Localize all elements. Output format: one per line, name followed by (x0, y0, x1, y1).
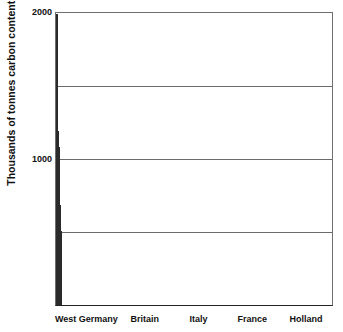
x-axis-category-labels: West Germany Britain Italy France Hollan… (55, 309, 333, 329)
bar-series (56, 13, 332, 305)
x-tick-label-holland: Holland (279, 309, 333, 329)
x-tick-label-west-germany: West Germany (55, 309, 118, 329)
plot-area (55, 12, 333, 306)
bar-holland (61, 231, 62, 305)
x-tick-label-france: France (225, 309, 279, 329)
x-tick-label-italy: Italy (172, 309, 226, 329)
x-tick-label-britain: Britain (118, 309, 172, 329)
y-tick-label-2000: 2000 (20, 8, 52, 17)
y-axis-title: Thousands of tonnes carbon content (0, 0, 22, 300)
bar-chart: Thousands of tonnes carbon content 2000 … (0, 0, 343, 332)
y-axis-title-label: Thousands of tonnes carbon content (6, 1, 17, 186)
y-axis-tick-labels: 2000 1000 (20, 0, 52, 310)
y-tick-label-1000: 1000 (20, 155, 52, 164)
